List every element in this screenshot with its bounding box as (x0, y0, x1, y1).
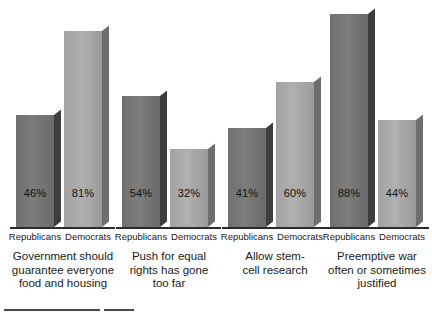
bar-democrats-1: 81% (64, 31, 102, 227)
group-tick-labels: Republicans Democrats (318, 231, 432, 247)
bar-democrats-3: 60% (276, 82, 314, 227)
bar-front-face (16, 115, 54, 227)
bar-democrats-2: 32% (170, 149, 208, 227)
bar-side-face (160, 91, 167, 227)
bar-value-label: 44% (378, 187, 416, 199)
group-tick-labels: Republicans Democrats (216, 231, 334, 247)
group-axis-line (222, 227, 327, 229)
group-caption: Preemptive war often or sometimes justif… (318, 250, 432, 291)
tick-label-republicans: Republicans (7, 231, 63, 242)
group-caption: Push for equal rights has gone too far (110, 250, 228, 291)
bar-value-label: 41% (228, 187, 266, 199)
bar-value-label: 81% (64, 187, 102, 199)
bar-value-label: 88% (330, 187, 368, 199)
bar-front-face (122, 96, 160, 227)
bar-republicans-2: 54% (122, 96, 160, 227)
caption-line: rights has gone (110, 264, 228, 278)
caption-line: guarantee everyone (4, 264, 122, 278)
bar-front-face (228, 128, 266, 227)
group-axis-line (10, 227, 115, 229)
caption-line: justified (318, 277, 432, 291)
bar-front-face (276, 82, 314, 227)
group-tick-labels: Republicans Democrats (110, 231, 228, 247)
group-tick-labels: Republicans Democrats (4, 231, 122, 247)
group-caption: Government should guarantee everyone foo… (4, 250, 122, 291)
tick-label-republicans: Republicans (321, 231, 377, 242)
caption-line: food and housing (4, 277, 122, 291)
caption-line: often or sometimes (318, 264, 432, 278)
bar-side-face (208, 144, 215, 227)
bar-side-face (54, 110, 61, 227)
bar-front-face (378, 120, 416, 227)
group-caption: Allow stem- cell research (216, 250, 334, 277)
bar-side-face (368, 9, 375, 227)
caption-line: cell research (216, 264, 334, 278)
bar-side-face (266, 123, 273, 227)
bar-chart: 46% 81% Republicans Democrats Government… (0, 0, 432, 317)
footer-divider-rule (4, 309, 100, 311)
footer-divider-rule-secondary (104, 309, 134, 311)
caption-line: Preemptive war (318, 250, 432, 264)
group-axis-line (116, 227, 221, 229)
caption-line: Allow stem- (216, 250, 334, 264)
bar-value-label: 60% (276, 187, 314, 199)
tick-label-republicans: Republicans (219, 231, 275, 242)
bar-side-face (102, 26, 109, 227)
chart-group-4: 88% 44% Republicans Democrats Preemptive… (318, 0, 432, 317)
tick-label-democrats: Democrats (166, 231, 222, 242)
tick-label-democrats: Democrats (60, 231, 116, 242)
bar-republicans-3: 41% (228, 128, 266, 227)
caption-line: Push for equal (110, 250, 228, 264)
bar-republicans-1: 46% (16, 115, 54, 227)
chart-group-3: 41% 60% Republicans Democrats Allow stem… (216, 0, 334, 317)
chart-group-1: 46% 81% Republicans Democrats Government… (4, 0, 122, 317)
bar-value-label: 32% (170, 187, 208, 199)
bar-value-label: 54% (122, 187, 160, 199)
bars-group-2: 54% 32% (110, 0, 228, 227)
group-axis-line (324, 227, 429, 229)
bar-value-label: 46% (16, 187, 54, 199)
tick-label-democrats: Democrats (374, 231, 430, 242)
bar-democrats-4: 44% (378, 120, 416, 227)
caption-line: too far (110, 277, 228, 291)
bars-group-1: 46% 81% (4, 0, 122, 227)
caption-line: Government should (4, 250, 122, 264)
bar-republicans-4: 88% (330, 14, 368, 227)
tick-label-republicans: Republicans (113, 231, 169, 242)
bar-side-face (416, 115, 423, 227)
bars-group-3: 41% 60% (216, 0, 334, 227)
chart-group-2: 54% 32% Republicans Democrats Push for e… (110, 0, 228, 317)
bars-group-4: 88% 44% (318, 0, 432, 227)
